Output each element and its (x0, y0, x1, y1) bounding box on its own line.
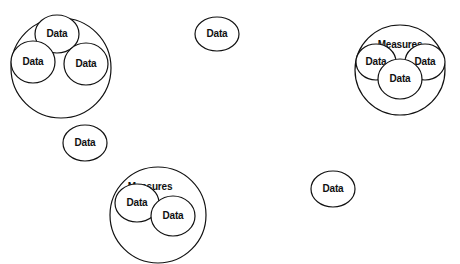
data-node-label: Data (47, 28, 69, 39)
data-node-label: Data (207, 28, 229, 39)
data-node-label: Data (390, 73, 412, 84)
data-node-label: Data (75, 137, 97, 148)
data-node-label: Data (23, 56, 45, 67)
group-top-right: MeasuresDataDataData (355, 25, 445, 115)
data-node-label: Data (127, 197, 149, 208)
standalone-data-node: Data (195, 17, 239, 51)
standalone-data-node: Data (63, 125, 107, 161)
diagram-canvas: DataDataDataMeasuresDataDataDataMeasures… (0, 0, 460, 264)
standalone-data-node: Data (311, 171, 355, 207)
group-top-left: DataDataData (11, 15, 111, 118)
data-node-label: Data (163, 210, 185, 221)
data-node-label: Data (323, 183, 345, 194)
data-node-label: Data (415, 56, 437, 67)
data-node-label: Data (76, 58, 98, 69)
group-bottom: MeasuresDataData (110, 167, 206, 263)
